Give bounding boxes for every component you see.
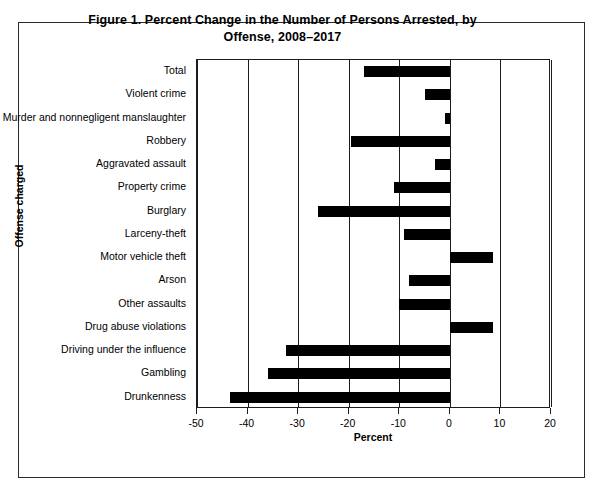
y-axis-label: Property crime bbox=[118, 175, 186, 198]
x-axis-tick bbox=[449, 408, 450, 414]
bar-row bbox=[197, 107, 549, 130]
y-axis-label: Robbery bbox=[146, 129, 186, 152]
bar[interactable] bbox=[409, 275, 449, 286]
bar-row bbox=[197, 200, 549, 223]
bar-row bbox=[197, 60, 549, 83]
y-axis-label: Burglary bbox=[147, 199, 186, 222]
bar-row bbox=[197, 246, 549, 269]
y-axis-label: Motor vehicle theft bbox=[100, 245, 186, 268]
bar-row bbox=[197, 83, 549, 106]
bar[interactable] bbox=[399, 299, 450, 310]
bar-row bbox=[197, 269, 549, 292]
x-axis-tick bbox=[348, 408, 349, 414]
bar[interactable] bbox=[404, 229, 450, 240]
bar-row bbox=[197, 362, 549, 385]
y-axis-label: Arson bbox=[159, 268, 186, 291]
bar-row bbox=[197, 293, 549, 316]
x-axis-tick bbox=[247, 408, 248, 414]
chart-title-line-2: Offense, 2008–2017 bbox=[30, 29, 535, 46]
bar[interactable] bbox=[318, 206, 449, 217]
chart-title: Figure 1. Percent Change in the Number o… bbox=[30, 12, 535, 46]
bar[interactable] bbox=[268, 368, 450, 379]
x-axis-tick bbox=[297, 408, 298, 414]
bar[interactable] bbox=[351, 136, 450, 147]
bar-row bbox=[197, 339, 549, 362]
bar[interactable] bbox=[445, 113, 450, 124]
bar-row bbox=[197, 386, 549, 409]
x-axis-tick bbox=[398, 408, 399, 414]
y-axis-label: Total bbox=[164, 59, 186, 82]
y-axis-label: Driving under the influence bbox=[61, 338, 186, 361]
y-axis-label: Gambling bbox=[141, 361, 186, 384]
x-axis-tick bbox=[550, 408, 551, 414]
bar-row bbox=[197, 130, 549, 153]
bar[interactable] bbox=[450, 252, 493, 263]
bar-row bbox=[197, 316, 549, 339]
y-axis-labels: TotalViolent crimeMurder and nonnegligen… bbox=[0, 59, 192, 408]
x-axis-tick-label: 10 bbox=[479, 417, 519, 429]
y-axis-label: Drunkenness bbox=[124, 385, 186, 408]
x-axis-tick-label: -50 bbox=[176, 417, 216, 429]
bar-row bbox=[197, 223, 549, 246]
x-axis-title: Percent bbox=[196, 431, 550, 443]
bar[interactable] bbox=[435, 159, 450, 170]
x-axis-tick-label: -10 bbox=[378, 417, 418, 429]
bar[interactable] bbox=[425, 89, 450, 100]
gridline-20 bbox=[551, 60, 552, 407]
x-axis-tick bbox=[499, 408, 500, 414]
y-axis-label: Larceny-theft bbox=[125, 222, 186, 245]
y-axis-label: Murder and nonnegligent manslaughter bbox=[3, 106, 186, 129]
bar[interactable] bbox=[230, 392, 450, 403]
bar[interactable] bbox=[450, 322, 493, 333]
bar-row bbox=[197, 176, 549, 199]
bar-row bbox=[197, 153, 549, 176]
x-axis-tick-label: -30 bbox=[277, 417, 317, 429]
bar[interactable] bbox=[286, 345, 450, 356]
x-axis-tick-label: 20 bbox=[530, 417, 570, 429]
x-axis-tick-label: -40 bbox=[227, 417, 267, 429]
x-axis-tick-label: 0 bbox=[429, 417, 469, 429]
y-axis-label: Violent crime bbox=[126, 82, 187, 105]
bar[interactable] bbox=[394, 182, 450, 193]
y-axis-label: Aggravated assault bbox=[96, 152, 186, 175]
y-axis-label: Drug abuse violations bbox=[85, 315, 186, 338]
x-axis-tick-label: -20 bbox=[328, 417, 368, 429]
plot-area bbox=[196, 59, 550, 408]
chart-title-line-1: Figure 1. Percent Change in the Number o… bbox=[30, 12, 535, 29]
y-axis-label: Other assaults bbox=[118, 292, 186, 315]
bar[interactable] bbox=[364, 66, 450, 77]
x-axis-tick bbox=[196, 408, 197, 414]
